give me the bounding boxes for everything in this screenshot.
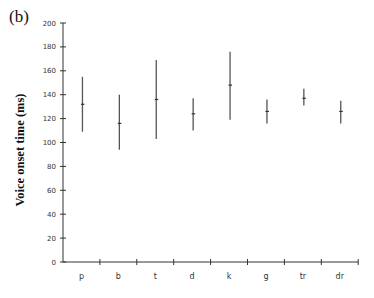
range-bar-k: [229, 52, 233, 120]
range-bar-t: [155, 60, 159, 139]
x-category-label: g: [263, 272, 268, 281]
y-tick-label: 140: [43, 91, 56, 99]
panel-label: (b): [9, 7, 29, 26]
x-category-label: d: [190, 272, 195, 281]
x-category-label: b: [116, 272, 121, 281]
x-category-label: t: [154, 272, 157, 281]
x-category-label: k: [227, 272, 232, 281]
y-tick-label: 80: [47, 163, 56, 171]
x-category-label: p: [79, 272, 84, 281]
range-bar-tr: [302, 89, 306, 106]
y-tick-label: 160: [43, 67, 56, 75]
y-axis: 020406080100120140160180200: [43, 20, 66, 267]
y-tick-label: 200: [43, 20, 56, 28]
range-bar-p: [81, 77, 85, 132]
y-tick-label: 120: [43, 115, 56, 123]
voice-onset-time-chart: (b) Voice onset time (ms) 02040608010012…: [0, 0, 374, 298]
x-axis: pbtdkgtrdr: [63, 259, 358, 281]
y-tick-label: 60: [47, 187, 56, 195]
y-tick-label: 0: [52, 259, 56, 267]
y-tick-label: 40: [47, 211, 56, 219]
y-axis-label: Voice onset time (ms): [13, 93, 27, 206]
y-tick-label: 20: [47, 235, 56, 243]
x-category-label: dr: [336, 272, 345, 281]
x-category-label: tr: [300, 272, 307, 281]
range-bar-dr: [339, 101, 343, 124]
y-tick-label: 180: [43, 43, 56, 51]
range-bars: [81, 52, 343, 150]
range-bar-d: [192, 98, 196, 130]
y-tick-label: 100: [43, 139, 56, 147]
range-bar-b: [118, 95, 122, 150]
range-bar-g: [265, 99, 269, 123]
